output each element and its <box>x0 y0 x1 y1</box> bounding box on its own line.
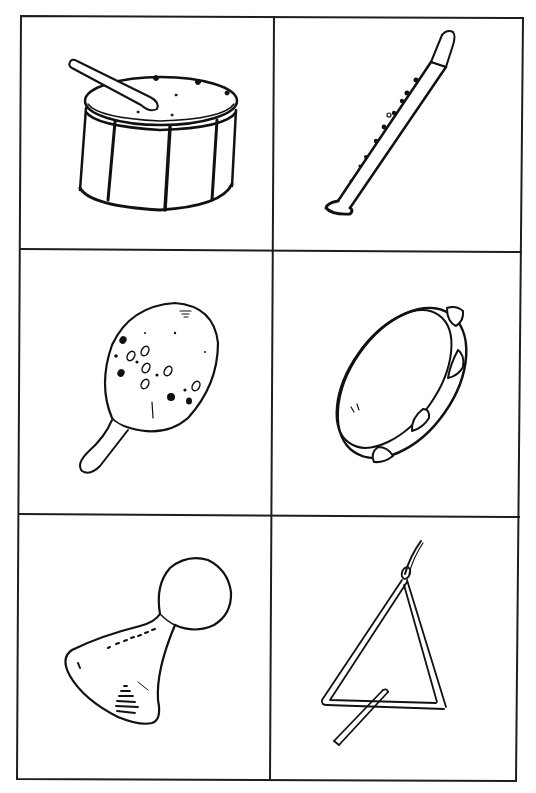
triangle-icon <box>0 0 536 793</box>
instrument-worksheet: Drum with drumstick <box>0 0 536 793</box>
